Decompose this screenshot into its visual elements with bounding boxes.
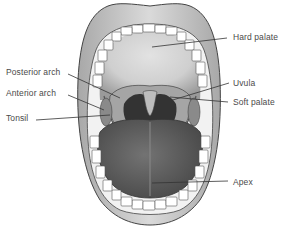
label-uvula: Uvula (233, 78, 255, 88)
label-posterior-arch: Posterior arch (6, 67, 60, 77)
label-tonsil: Tonsil (6, 113, 28, 123)
label-anterior-arch: Anterior arch (6, 88, 56, 98)
left-tonsil (100, 98, 112, 126)
label-soft-palate: Soft palate (233, 97, 275, 107)
right-tonsil (188, 98, 200, 126)
label-apex: Apex (233, 177, 253, 187)
label-hard-palate: Hard palate (233, 32, 278, 42)
